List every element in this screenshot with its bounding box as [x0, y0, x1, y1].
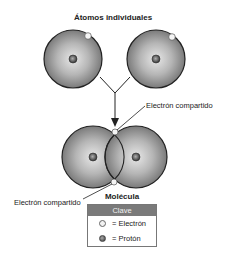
merge-arrow: [100, 77, 130, 119]
molecule: [62, 126, 167, 188]
label-shared-electron-bottom: Electrón compartido: [14, 198, 81, 207]
label-shared-electron-top: Electrón compartido: [146, 101, 213, 110]
electron-icon: [169, 34, 176, 41]
electron-icon: [99, 220, 106, 227]
key-item-electron: = Electrón: [88, 216, 156, 231]
proton-icon: [132, 153, 140, 161]
key-item-label: = Protón: [112, 234, 141, 243]
key-legend: Clave = Electrón = Protón: [87, 204, 157, 247]
proton-icon: [152, 55, 160, 63]
key-header: Clave: [88, 205, 156, 216]
proton-icon: [69, 55, 77, 63]
proton-icon: [99, 235, 106, 242]
atom-left: [44, 30, 102, 88]
proton-icon: [89, 153, 97, 161]
atom-right: [127, 30, 185, 88]
title-molecule: Molécula: [86, 192, 158, 201]
key-item-proton: = Protón: [88, 231, 156, 246]
arrow-head-icon: [111, 118, 119, 127]
key-item-label: = Electrón: [112, 219, 146, 228]
electron-icon: [85, 33, 92, 40]
